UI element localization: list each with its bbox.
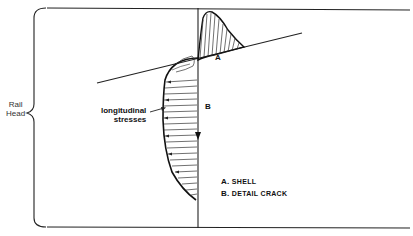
rail-head-label-line1: Rail <box>9 100 23 109</box>
legend-item-shell: A. SHELL <box>221 176 287 188</box>
legend-key: A. <box>221 177 230 186</box>
legend-item-detail-crack: B. DETAIL CRACK <box>221 188 287 200</box>
legend: A. SHELL B. DETAIL CRACK <box>221 176 287 200</box>
arrow-down-icon <box>195 132 201 140</box>
rail-head-brace <box>27 8 46 227</box>
legend-text: SHELL <box>232 178 256 185</box>
longitudinal-label-line1: longitudinal <box>101 106 146 115</box>
bottom-boundary-line <box>47 227 410 228</box>
top-boundary-line <box>47 8 410 10</box>
rail-head-label-line2: Head <box>6 109 25 118</box>
rail-head-stress-diagram <box>0 0 413 236</box>
longitudinal-label-line2: stresses <box>101 115 146 124</box>
shell-stress-region <box>198 12 244 60</box>
detail-crack-stress-region <box>163 56 201 200</box>
longitudinal-stresses-label: longitudinal stresses <box>101 106 146 124</box>
rail-head-label: Rail Head <box>6 100 25 118</box>
point-b-label: B <box>205 102 211 111</box>
point-a-label: A <box>215 53 221 62</box>
legend-text: DETAIL CRACK <box>232 190 287 197</box>
legend-key: B. <box>221 189 230 198</box>
